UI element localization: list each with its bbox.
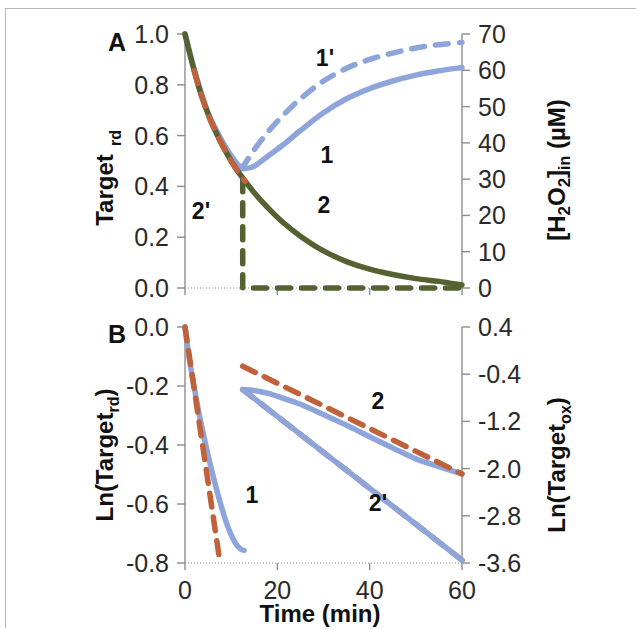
panel-a-letter: A [108,28,126,56]
svg-text:rd: rd [107,130,124,146]
svg-text:Target: Target [91,154,118,226]
x-axis-title: Time (min) [260,600,381,627]
figure-root: 0.00.20.40.60.81.00102030405060701'122'-… [0,0,638,630]
panel-b-right-axis-title: Ln(Targetox) [543,397,574,533]
svg-text:Ln(Targetox): Ln(Targetox) [543,397,574,533]
ln-target-ox-open: Ln(Target [543,424,570,533]
panel-b-left-axis-title: Ln(Targetrd) [91,389,122,522]
ln-target-rd-open: Ln(Target [91,413,118,522]
panel-a-right-axis-title: [H2O2]in (µM) [543,99,574,241]
figure-text-layer: A B Target rd [H2O2]in (µM) Ln(Targetrd)… [0,0,638,630]
panel-a-left-axis-title: Target rd [91,130,124,226]
panel-b-letter: B [108,320,126,348]
svg-text:[H2O2]in (µM): [H2O2]in (µM) [543,99,574,241]
h2o2-bracket-open: [H [543,215,570,240]
svg-text:Ln(Targetrd): Ln(Targetrd) [91,389,122,522]
